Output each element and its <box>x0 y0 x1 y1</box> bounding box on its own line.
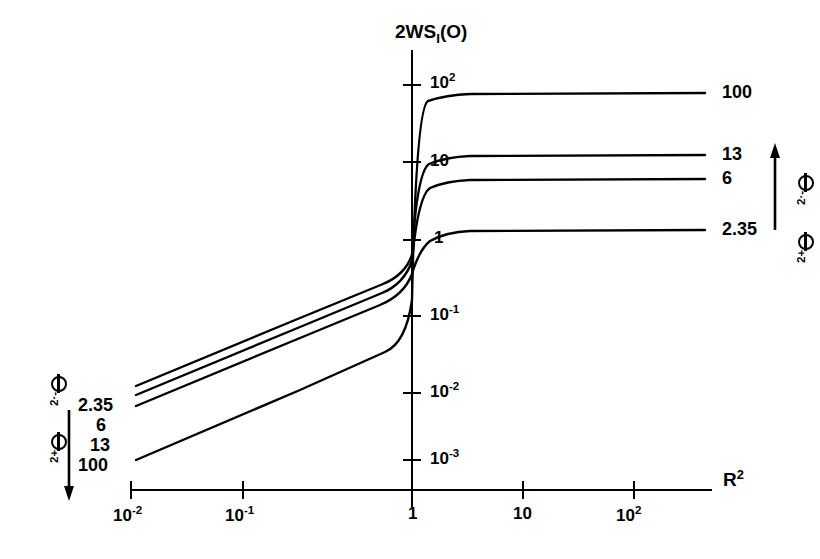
x-tick-label-1e-2-base: 10 <box>113 506 132 525</box>
curve-label-left-13: 13 <box>90 436 110 454</box>
theta-icon <box>798 175 814 191</box>
curve-label-right-2-35: 2.35 <box>722 220 757 238</box>
y-tick-label-10: 10 <box>430 152 449 169</box>
left-ratio-denominator-superscript: 2+ <box>48 450 60 463</box>
x-tick-label-1e2: 102 <box>616 505 641 524</box>
y-tick-label-1e2: 102 <box>430 72 455 91</box>
y-tick-label-1e-1: 10-1 <box>430 304 459 323</box>
right-ratio-numerator-superscript: 2·- <box>795 191 807 205</box>
x-tick-label-1e-2: 10-2 <box>113 505 142 524</box>
y-tick-label-1e-1-exponent: -1 <box>449 303 459 315</box>
y-tick-label-1e-3: 10-3 <box>430 448 459 467</box>
x-tick-label-1e-1-base: 10 <box>225 506 244 525</box>
theta-bar-icon <box>57 432 60 451</box>
theta-bar-icon <box>804 173 807 192</box>
y-tick-label-1e-3-exponent: -3 <box>449 447 459 459</box>
x-tick-label-1e2-exponent: 2 <box>635 504 641 516</box>
y-tick-label-1e2-exponent: 2 <box>449 71 455 83</box>
y-tick-label-1: 1 <box>434 229 443 246</box>
y-axis-title-tail: (O) <box>440 21 467 42</box>
curve-2-35 <box>136 230 705 406</box>
curve-label-right-100: 100 <box>722 83 752 101</box>
y-tick-label-1e-2-exponent: -2 <box>449 380 459 392</box>
curve-label-left-6: 6 <box>96 416 106 434</box>
y-tick-label-1e-2-base: 10 <box>430 382 449 401</box>
theta-icon <box>51 376 67 392</box>
theta-icon <box>51 434 67 450</box>
right-ratio-denominator: 2+ <box>795 234 817 263</box>
x-axis-title-exponent: 2 <box>737 467 744 482</box>
x-tick-label-1: 1 <box>408 505 417 522</box>
theta-icon <box>798 234 814 250</box>
curve-13 <box>136 155 705 386</box>
curve-label-left-2-35: 2.35 <box>78 396 113 414</box>
x-tick-label-10: 10 <box>513 505 532 522</box>
left-ratio-denominator: 2+ <box>48 434 70 463</box>
x-axis-title-base: R <box>723 469 737 490</box>
x-tick-label-1e2-base: 10 <box>616 506 635 525</box>
theta-bar-icon <box>804 232 807 251</box>
y-axis-title: 2WSI(O) <box>395 22 467 45</box>
theta-bar-icon <box>57 374 60 393</box>
plot-canvas <box>0 0 820 559</box>
x-tick-label-1e-2-exponent: -2 <box>132 504 142 516</box>
curve-label-left-100: 100 <box>78 456 108 474</box>
x-axis-title: R2 <box>723 469 744 489</box>
y-tick-label-1e2-base: 10 <box>430 73 449 92</box>
y-tick-label-1e-2: 10-2 <box>430 381 459 400</box>
x-tick-label-1e-1: 10-1 <box>225 505 254 524</box>
y-tick-label-1e-3-base: 10 <box>430 449 449 468</box>
right-ratio-numerator: 2·- <box>795 175 817 205</box>
y-tick-label-1e-1-base: 10 <box>430 305 449 324</box>
curve-label-right-13: 13 <box>722 145 742 163</box>
right-ratio-denominator-superscript: 2+ <box>795 250 807 263</box>
left-ratio-numerator: 2·- <box>48 376 70 406</box>
y-axis-title-main: 2WS <box>395 21 436 42</box>
left-ratio-numerator-superscript: 2·- <box>48 392 60 406</box>
right-arrow-up-icon <box>770 143 780 230</box>
curve-6 <box>136 179 705 395</box>
figure-container: 2WSI(O) R2 102 10 1 10-1 10-2 10-3 10-2 … <box>0 0 820 559</box>
x-tick-label-1e-1-exponent: -1 <box>244 504 254 516</box>
curve-label-right-6: 6 <box>722 169 732 187</box>
curve-100 <box>136 93 705 460</box>
